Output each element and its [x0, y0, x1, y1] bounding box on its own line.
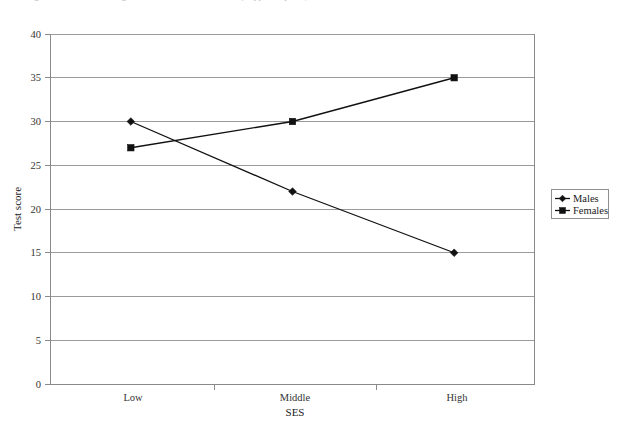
x-axis-ticks: Low Middle High [123, 384, 468, 403]
y-axis-ticks: 40 35 30 25 20 15 10 5 0 [31, 29, 51, 390]
figure-container: Figure 1. Interaction of gender and SES … [0, 0, 631, 436]
x-tick-label-high: High [447, 392, 469, 403]
y-tick-label-35: 35 [31, 72, 42, 83]
y-tick-label-5: 5 [36, 335, 41, 346]
x-tick-label-middle: Middle [280, 392, 311, 403]
y-tick-label-40: 40 [31, 29, 42, 40]
plot-grid [50, 34, 535, 385]
data-point-diamond [127, 118, 135, 126]
line-chart: 40 35 30 25 20 15 10 5 0 Test score Low … [0, 0, 631, 436]
y-tick-label-0: 0 [36, 379, 41, 390]
data-point-diamond [289, 188, 297, 196]
data-point-square [451, 75, 457, 81]
x-axis-title: SES [286, 406, 305, 418]
y-tick-label-30: 30 [31, 116, 42, 127]
series-males [127, 118, 458, 257]
data-point-square [128, 145, 134, 151]
series-line-females [131, 78, 454, 148]
x-tick-label-low: Low [123, 392, 143, 403]
series-line-males [131, 122, 454, 253]
y-axis-title: Test score [11, 187, 23, 231]
legend-label-females: Females [573, 205, 608, 216]
data-point-square [289, 118, 295, 124]
square-marker-icon [560, 208, 566, 214]
y-tick-label-10: 10 [31, 291, 42, 302]
data-point-diamond [450, 249, 458, 257]
y-tick-label-20: 20 [31, 204, 42, 215]
chart-legend[interactable]: Males Females [552, 190, 609, 219]
y-tick-label-15: 15 [31, 247, 42, 258]
series-females [128, 75, 458, 151]
series-markers-females [128, 75, 458, 151]
legend-label-males: Males [573, 193, 599, 204]
y-tick-label-25: 25 [31, 160, 42, 171]
